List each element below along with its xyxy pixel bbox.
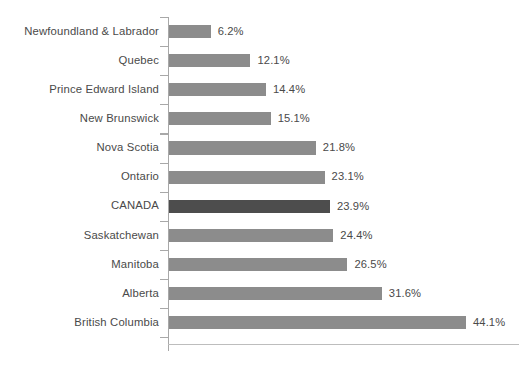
bar[interactable] [169,112,271,125]
category-label: New Brunswick [0,113,159,124]
bar[interactable] [169,171,325,184]
value-axis-baseline [168,344,519,345]
bar-row[interactable]: CANADA23.9% [0,192,519,221]
bar-row[interactable]: Saskatchewan24.4% [0,221,519,250]
axis-tick [160,337,168,338]
category-label: Newfoundland & Labrador [0,26,159,37]
bar-and-value: 23.9% [169,200,369,213]
bar[interactable] [169,54,250,67]
bar-and-value: 12.1% [169,54,290,67]
bar[interactable] [169,83,266,96]
category-label: Nova Scotia [0,142,159,153]
bar-value-label: 23.9% [337,201,369,212]
category-label: Prince Edward Island [0,84,159,95]
bar-and-value: 15.1% [169,112,310,125]
bar[interactable] [169,258,347,271]
bar-highlighted[interactable] [169,200,330,213]
category-label: British Columbia [0,317,159,328]
bar-value-label: 21.8% [323,142,355,153]
bar-value-label: 31.6% [389,288,421,299]
bar-and-value: 44.1% [169,316,505,329]
category-label: Quebec [0,55,159,66]
bar-row[interactable]: Nova Scotia21.8% [0,133,519,162]
bar-row[interactable]: New Brunswick15.1% [0,104,519,133]
bar-and-value: 31.6% [169,287,421,300]
bar-row[interactable]: Newfoundland & Labrador6.2% [0,17,519,46]
bar[interactable] [169,141,316,154]
category-label: Saskatchewan [0,230,159,241]
bar-and-value: 24.4% [169,229,373,242]
bar-row[interactable]: Alberta31.6% [0,279,519,308]
bar-and-value: 26.5% [169,258,387,271]
bar-and-value: 23.1% [169,171,364,184]
bar-value-label: 24.4% [340,230,372,241]
bar-row[interactable]: Prince Edward Island14.4% [0,75,519,104]
bar-value-label: 6.2% [218,26,244,37]
bar-value-label: 15.1% [278,113,310,124]
bar-value-label: 44.1% [473,317,505,328]
bar-row[interactable]: Quebec12.1% [0,46,519,75]
bar-and-value: 6.2% [169,25,244,38]
bar-value-label: 23.1% [332,171,364,182]
bar-value-label: 12.1% [257,55,289,66]
plot-area: Newfoundland & Labrador6.2%Quebec12.1%Pr… [0,0,519,382]
bar-row[interactable]: Ontario23.1% [0,163,519,192]
bar-chart: Newfoundland & Labrador6.2%Quebec12.1%Pr… [0,0,519,382]
bar-value-label: 26.5% [354,259,386,270]
bar-and-value: 21.8% [169,141,355,154]
bar[interactable] [169,25,211,38]
category-label: CANADA [0,200,159,211]
bar-value-label: 14.4% [273,84,305,95]
category-label: Manitoba [0,259,159,270]
category-label: Alberta [0,288,159,299]
bar[interactable] [169,229,333,242]
category-label: Ontario [0,171,159,182]
bar-row[interactable]: British Columbia44.1% [0,308,519,337]
bar[interactable] [169,316,466,329]
bar-row[interactable]: Manitoba26.5% [0,250,519,279]
bar[interactable] [169,287,382,300]
bar-and-value: 14.4% [169,83,305,96]
